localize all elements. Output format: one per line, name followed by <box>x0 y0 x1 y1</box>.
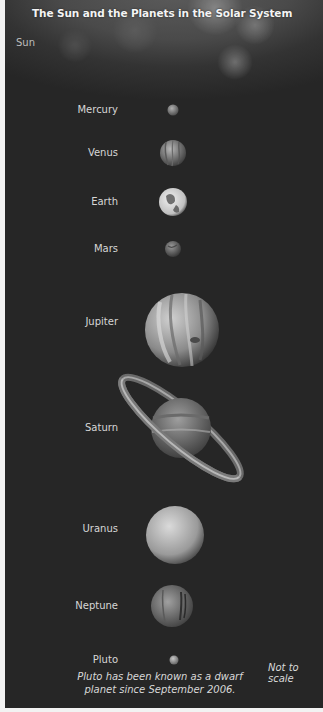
caption-line-2: planet since September 2006. <box>40 683 280 696</box>
planets-graphic <box>0 0 323 712</box>
planet-earth <box>159 188 187 216</box>
planet-venus <box>160 140 186 166</box>
planet-neptune <box>151 585 193 627</box>
planet-mars <box>165 241 181 257</box>
bottom-border <box>0 708 323 712</box>
planet-mercury <box>168 105 179 116</box>
planet-jupiter <box>145 293 219 367</box>
planet-saturn <box>111 365 251 490</box>
planet-pluto <box>170 656 179 665</box>
caption-line-1: Pluto has been known as a dwarf <box>40 670 280 683</box>
pluto-caption: Pluto has been known as a dwarf planet s… <box>40 670 280 696</box>
planet-uranus <box>146 506 204 564</box>
